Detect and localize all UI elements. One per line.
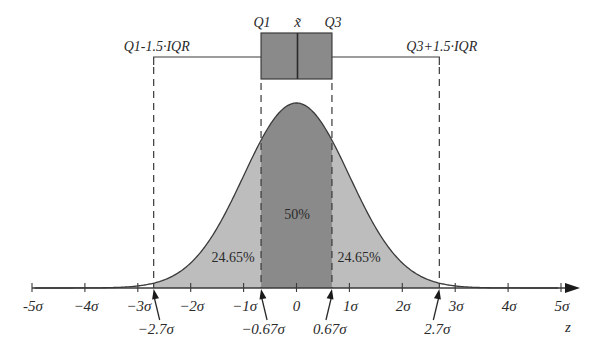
lower-whisker [154, 57, 261, 65]
tick-label: 4σ [502, 298, 518, 314]
tick-label: 2σ [396, 298, 412, 314]
tick-label: −3σ [126, 298, 152, 314]
tick-label: 0 [293, 298, 301, 314]
upper-whisker-label: Q3+1.5·IQR [406, 39, 477, 54]
marker-label: −2.7σ [138, 321, 175, 337]
upper-whisker [332, 57, 439, 65]
lower-whisker-label: Q1-1.5·IQR [124, 39, 191, 54]
iqr-box [261, 33, 332, 79]
axis-tick-labels: -5σ−4σ−3σ−2σ−1σ01σ2σ3σ4σ5σ [23, 298, 570, 314]
tick-label: −2σ [179, 298, 205, 314]
q1-label: Q1 [253, 15, 270, 30]
arrow-head-icon [434, 289, 441, 299]
axis-arrow-icon [565, 283, 580, 293]
axis-label-z: z [564, 319, 571, 335]
marker-label: 0.67σ [313, 321, 347, 337]
region-label-left: 24.65% [211, 250, 255, 265]
tick-label: 3σ [448, 298, 465, 314]
q3-label: Q3 [324, 15, 341, 30]
boxplot-normal-distribution-diagram: Q1 x̃ Q3 Q1-1.5·IQR Q3+1.5·IQR 24.65% 50… [0, 0, 599, 355]
arrow-head-icon [260, 289, 267, 299]
marker-label: 2.7σ [424, 321, 451, 337]
arrow-head-icon [327, 289, 334, 299]
region-center [261, 103, 332, 288]
tick-label: -5σ [23, 298, 43, 314]
tick-label: 5σ [555, 298, 571, 314]
median-label: x̃ [293, 14, 301, 30]
density-regions [154, 103, 440, 288]
region-label-right: 24.65% [337, 250, 381, 265]
region-label-center: 50% [284, 207, 310, 222]
tick-label: 1σ [343, 298, 359, 314]
arrow-head-icon [152, 289, 159, 299]
marker-3: 2.7σ [424, 289, 451, 337]
marker-label: −0.67σ [241, 321, 285, 337]
tick-label: −4σ [73, 298, 99, 314]
region-left [154, 140, 261, 288]
tick-label: −1σ [232, 298, 258, 314]
region-right [332, 140, 439, 288]
